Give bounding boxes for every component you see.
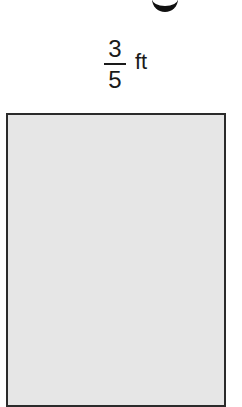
fraction: 3 5 xyxy=(104,36,126,92)
fraction-bar xyxy=(104,63,126,65)
unit-label: ft xyxy=(135,49,147,75)
fraction-numerator: 3 xyxy=(108,36,121,61)
width-dimension-label: 3 5 ft xyxy=(104,36,147,92)
rectangle-shape xyxy=(6,113,226,407)
cropped-title-fragment xyxy=(152,0,178,12)
fraction-denominator: 5 xyxy=(108,67,121,92)
